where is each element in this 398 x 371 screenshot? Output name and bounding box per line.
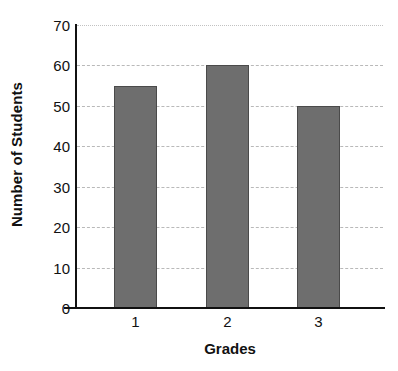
gridline-70 [77, 25, 383, 26]
y-tick-label-30: 30 [36, 179, 70, 194]
x-tick-label-1: 1 [106, 313, 166, 331]
y-axis-tick-labels: 010203040506070 [36, 0, 70, 371]
bar-2[interactable] [206, 65, 249, 308]
y-axis-title-label: Number of Students [9, 81, 26, 226]
bar-chart: Number of Students 010203040506070 123 G… [0, 0, 398, 371]
x-axis-tick-labels: 123 [77, 313, 383, 337]
y-tick-label-40: 40 [36, 139, 70, 154]
x-axis-title: Grades [77, 340, 383, 357]
y-axis-line [75, 24, 77, 309]
bar-1[interactable] [114, 86, 157, 308]
x-tick-label-2: 2 [198, 313, 258, 331]
y-tick-label-60: 60 [36, 58, 70, 73]
y-tick-label-70: 70 [36, 18, 70, 33]
plot-area [77, 25, 383, 308]
y-tick-label-10: 10 [36, 260, 70, 275]
y-tick-label-20: 20 [36, 220, 70, 235]
x-axis-line [64, 307, 385, 309]
bar-3[interactable] [297, 106, 340, 308]
x-tick-label-3: 3 [289, 313, 349, 331]
y-axis-title: Number of Students [0, 0, 34, 308]
y-tick-label-50: 50 [36, 98, 70, 113]
